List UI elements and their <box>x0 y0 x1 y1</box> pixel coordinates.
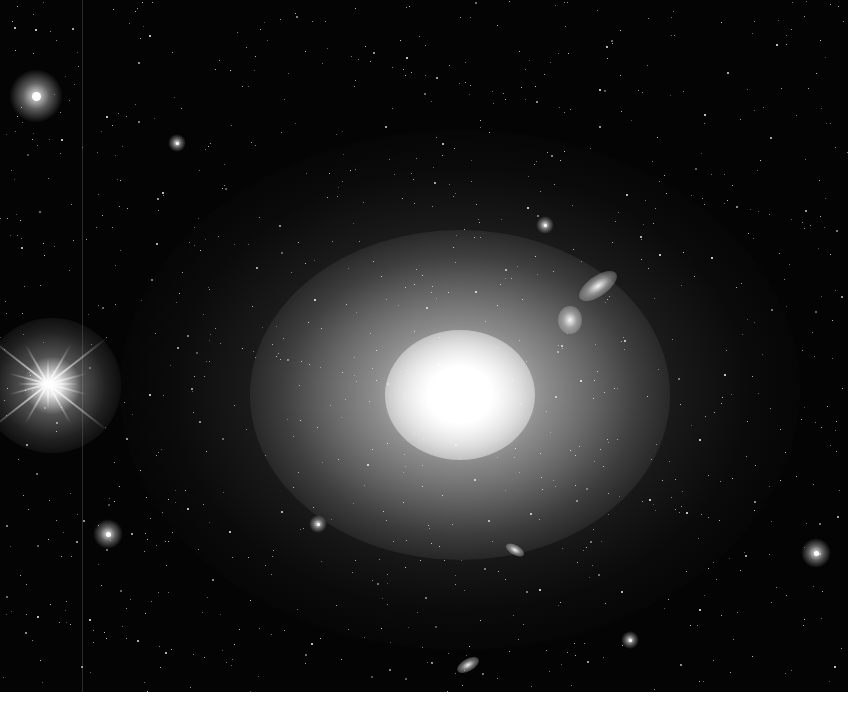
faint-star <box>536 101 538 103</box>
faint-star <box>229 531 231 533</box>
faint-star <box>117 179 118 180</box>
faint-star <box>812 332 813 333</box>
faint-star <box>492 91 493 92</box>
faint-star <box>835 147 836 148</box>
faint-star <box>704 123 705 124</box>
faint-star <box>98 305 99 306</box>
faint-star <box>336 134 337 135</box>
faint-star <box>555 5 556 6</box>
faint-star <box>106 638 107 639</box>
faint-star <box>10 235 11 236</box>
faint-star <box>771 602 772 603</box>
faint-star <box>23 495 24 496</box>
faint-star <box>56 520 57 521</box>
faint-star <box>342 131 343 132</box>
faint-star <box>791 670 792 671</box>
faint-star <box>740 570 741 571</box>
faint-star <box>246 47 247 48</box>
faint-star <box>555 486 556 487</box>
faint-star <box>752 33 753 34</box>
faint-star <box>808 88 809 89</box>
faint-star <box>206 451 207 452</box>
faint-star <box>551 155 553 157</box>
faint-star <box>607 58 608 59</box>
faint-star <box>806 523 807 524</box>
faint-star <box>727 72 729 74</box>
faint-star <box>21 247 23 249</box>
faint-star <box>163 195 164 196</box>
faint-star <box>652 161 653 162</box>
faint-star <box>822 591 823 592</box>
faint-star <box>190 687 191 688</box>
faint-star <box>7 218 8 219</box>
faint-star <box>806 1 807 2</box>
faint-star <box>254 70 255 71</box>
faint-star <box>106 337 107 338</box>
faint-star <box>704 595 705 596</box>
faint-star <box>24 286 25 287</box>
faint-star <box>460 17 461 18</box>
faint-star <box>293 487 294 488</box>
faint-star <box>298 472 299 473</box>
faint-star <box>416 388 417 389</box>
faint-star <box>492 541 493 542</box>
faint-star <box>818 248 819 249</box>
faint-star <box>641 239 642 240</box>
faint-star <box>36 473 38 475</box>
faint-star <box>805 210 807 212</box>
faint-star <box>208 287 209 288</box>
star <box>314 299 316 301</box>
faint-star <box>305 663 306 664</box>
faint-star <box>341 659 342 660</box>
faint-star <box>98 564 99 565</box>
faint-star <box>199 421 201 423</box>
faint-star <box>549 671 550 672</box>
faint-star <box>528 176 529 177</box>
faint-star <box>423 439 424 440</box>
star <box>106 532 111 537</box>
faint-star <box>594 380 595 381</box>
faint-star <box>74 84 75 85</box>
faint-star <box>439 546 440 547</box>
faint-star <box>137 640 139 642</box>
faint-star <box>433 167 434 168</box>
faint-star <box>568 53 569 54</box>
faint-star <box>106 116 108 118</box>
faint-star <box>223 492 224 493</box>
faint-star <box>354 375 355 376</box>
faint-star <box>829 681 830 682</box>
faint-star <box>372 449 373 450</box>
faint-star <box>90 672 91 673</box>
faint-star <box>747 89 748 90</box>
faint-star <box>168 592 169 593</box>
faint-star <box>708 568 709 569</box>
star <box>659 254 661 256</box>
faint-star <box>529 60 530 61</box>
faint-star <box>26 444 28 446</box>
faint-star <box>151 279 153 281</box>
faint-star <box>821 618 822 619</box>
faint-star <box>50 604 51 605</box>
faint-star <box>56 40 57 41</box>
faint-star <box>181 108 182 109</box>
faint-star <box>758 211 759 212</box>
faint-star <box>744 552 745 553</box>
faint-star <box>260 29 261 30</box>
faint-star <box>392 108 393 109</box>
faint-star <box>493 103 494 104</box>
faint-star <box>37 545 39 547</box>
faint-star <box>359 241 360 242</box>
faint-star <box>108 504 110 506</box>
faint-star <box>671 17 672 18</box>
faint-star <box>832 320 833 321</box>
faint-star <box>804 228 805 229</box>
faint-star <box>436 77 438 79</box>
faint-star <box>567 2 568 3</box>
faint-star <box>480 127 481 128</box>
faint-star <box>409 6 410 7</box>
faint-star <box>525 99 526 100</box>
faint-star <box>119 486 120 487</box>
faint-star <box>226 662 227 663</box>
faint-star <box>567 652 568 653</box>
star <box>820 40 821 41</box>
